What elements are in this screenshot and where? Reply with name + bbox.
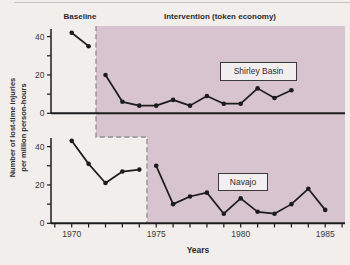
x-tick-label: 1980 — [231, 229, 250, 239]
data-point-navajo — [222, 211, 227, 216]
data-point-shirley-basin — [238, 101, 243, 106]
intervention-shaded-region — [96, 26, 345, 223]
y-tick-label: 40 — [35, 32, 45, 42]
series-line-navajo — [72, 141, 140, 183]
intervention-phase-header: Intervention (token economy) — [118, 11, 322, 23]
y-tick-label: 0 — [40, 108, 45, 118]
data-point-navajo — [289, 202, 294, 207]
data-point-shirley-basin — [103, 73, 108, 78]
data-point-shirley-basin — [86, 44, 91, 49]
data-point-navajo — [238, 196, 243, 201]
data-point-navajo — [86, 162, 91, 167]
y-tick-label: 40 — [35, 142, 45, 152]
baseline-phase-header: Baseline — [45, 11, 115, 23]
x-axis-label: Years — [158, 245, 238, 255]
data-point-shirley-basin — [222, 101, 227, 106]
data-point-navajo — [272, 211, 277, 216]
y-tick-label: 20 — [35, 70, 45, 80]
data-point-shirley-basin — [120, 99, 125, 104]
data-point-shirley-basin — [205, 94, 210, 99]
data-point-navajo — [188, 194, 193, 199]
y-axis-label-line2: per million person-hours — [18, 42, 29, 214]
data-point-navajo — [323, 208, 328, 213]
data-point-shirley-basin — [255, 86, 260, 91]
data-point-navajo — [171, 202, 176, 207]
data-point-shirley-basin — [171, 98, 176, 103]
data-point-shirley-basin — [272, 96, 277, 101]
data-point-navajo — [255, 209, 260, 214]
data-point-shirley-basin — [289, 88, 294, 93]
data-point-navajo — [120, 169, 125, 174]
y-tick-label: 0 — [40, 218, 45, 228]
data-point-shirley-basin — [137, 103, 142, 108]
series-label-shirley-basin: Shirley Basin — [220, 62, 297, 81]
x-tick-label: 1970 — [62, 229, 81, 239]
x-tick-label: 1975 — [147, 229, 166, 239]
chart-figure: 02040020401970197519801985 Baseline Inte… — [0, 0, 350, 265]
series-line-shirley-basin — [72, 33, 89, 46]
y-tick-label: 20 — [35, 180, 45, 190]
series-label-navajo: Navajo — [218, 173, 268, 191]
data-point-navajo — [205, 190, 210, 195]
data-point-navajo — [69, 139, 74, 144]
x-tick-label: 1985 — [316, 229, 335, 239]
data-point-shirley-basin — [188, 103, 193, 108]
data-point-shirley-basin — [154, 103, 159, 108]
data-point-navajo — [137, 167, 142, 172]
chart-canvas: 02040020401970197519801985 — [0, 0, 350, 265]
data-point-navajo — [154, 163, 159, 168]
data-point-shirley-basin — [69, 30, 74, 35]
y-axis-label: Number of lost-time injuries per million… — [8, 42, 29, 214]
data-point-navajo — [306, 186, 311, 191]
data-point-navajo — [103, 181, 108, 186]
y-axis-label-line1: Number of lost-time injuries — [8, 42, 19, 214]
